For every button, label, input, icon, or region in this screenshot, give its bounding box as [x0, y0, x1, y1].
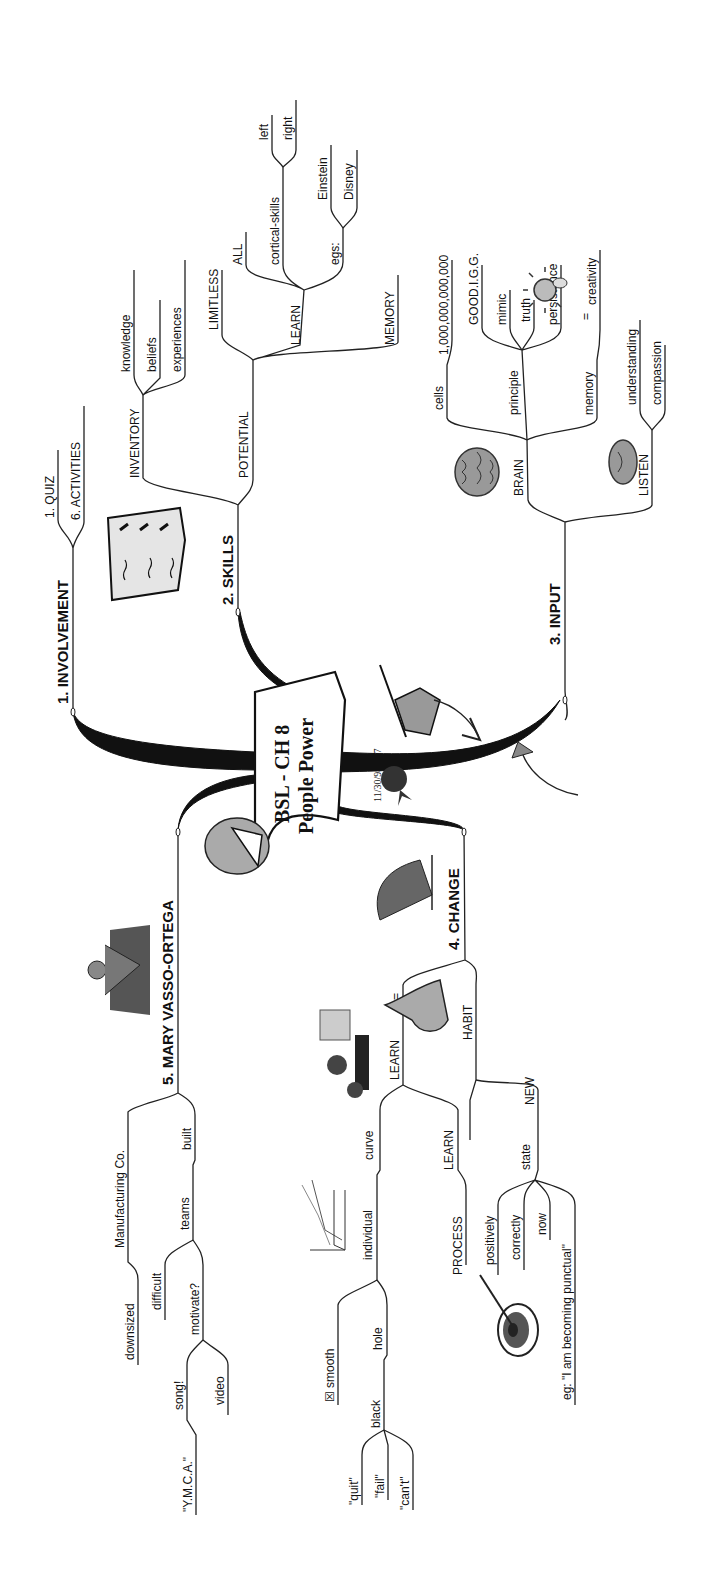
memory-input-label: memory	[582, 372, 596, 415]
process-label: PROCESS	[451, 1216, 465, 1275]
thumb-hand-icon	[385, 980, 448, 1031]
beliefs-label: beliefs	[145, 337, 159, 372]
difficult-label: difficult	[150, 1272, 164, 1310]
change-learn-label: LEARN	[388, 1040, 402, 1080]
cortical-skills-label: cortical-skills	[268, 197, 282, 265]
involvement-label: 1. INVOLVEMENT	[54, 580, 71, 704]
egs-label: egs:	[328, 242, 342, 265]
branch-change: 4. CHANGE = LEARN curve individual ☒ smo…	[302, 828, 575, 1510]
rosette-icon	[381, 766, 412, 806]
activities-label: 6. ACTIVITIES	[69, 442, 83, 520]
brain-label: BRAIN	[512, 459, 526, 496]
truth-label: truth	[519, 298, 533, 322]
correctly-label: correctly	[509, 1215, 523, 1260]
curve-label: curve	[362, 1130, 376, 1160]
smooth-marker: ☒	[323, 1391, 337, 1402]
all-label: ALL	[231, 243, 245, 265]
central-title: BSL - CH 8	[271, 725, 293, 823]
sailboat-icon	[377, 855, 432, 920]
cells-value: 1,000,000,000,000	[437, 255, 451, 355]
input-label: 3. INPUT	[546, 583, 563, 645]
laughing-face-icon	[205, 818, 269, 874]
branch-involvement: 1. INVOLVEMENT 1. QUIZ 6. ACTIVITIES	[43, 406, 84, 716]
learn-label: LEARN	[289, 305, 303, 345]
teams-label: teams	[178, 1197, 192, 1230]
central-subtitle: People Power	[295, 718, 318, 834]
now-label: now	[535, 1213, 549, 1235]
ymca-label: "Y.M.C.A."	[181, 1457, 195, 1512]
hole-label: hole	[371, 1327, 385, 1350]
mimic-label: mimic	[495, 294, 509, 325]
branch-skills: 2. SKILLS INVENTORY knowledge beliefs ex…	[108, 100, 398, 616]
memory-equals: =	[579, 313, 593, 320]
central-date: 11/30/98 - v7	[372, 748, 383, 802]
experiences-label: experiences	[170, 307, 184, 372]
learning-curve-chart-icon	[302, 1180, 345, 1250]
disney-label: Disney	[342, 163, 356, 200]
ear-icon	[609, 440, 637, 484]
built-label: built	[180, 1127, 194, 1150]
quiz-label: 1. QUIZ	[43, 476, 57, 518]
branch-mary: 5. MARY VASSO-ORTEGA Manufacturing Co. d…	[88, 828, 228, 1515]
listen-label: LISTEN	[637, 454, 651, 496]
limitless-label: LIMITLESS	[207, 269, 221, 330]
knowledge-label: knowledge	[119, 314, 133, 372]
quit-label: "quit"	[347, 1477, 361, 1505]
connector-change	[333, 805, 464, 830]
checklist-icon	[108, 508, 185, 600]
right-label: right	[281, 116, 295, 140]
individual-label: individual	[361, 1210, 375, 1260]
motivate-label: motivate?	[188, 1283, 202, 1335]
new-label: NEW	[523, 1076, 537, 1105]
meditating-person-icon	[88, 925, 150, 1015]
connector-involvement	[73, 712, 255, 770]
good-igg-label: GOOD.I.G.G.	[467, 253, 481, 325]
change-label: 4. CHANGE	[445, 868, 462, 950]
black-label: black	[369, 1399, 383, 1428]
mary-label: 5. MARY VASSO-ORTEGA	[159, 900, 176, 1085]
smooth-label: smooth	[323, 1349, 337, 1388]
mind-map: BSL - CH 8 People Power 11/30/98 - v7	[0, 0, 710, 1595]
habit-label: HABIT	[461, 1004, 475, 1040]
central-node: BSL - CH 8 People Power 11/30/98 - v7	[73, 612, 578, 874]
compassion-label: compassion	[650, 341, 664, 405]
creativity-label: creativity	[585, 258, 599, 305]
manufacturing-label: Manufacturing Co.	[113, 1150, 127, 1248]
state-label: state	[519, 1144, 533, 1170]
left-label: left	[257, 123, 271, 140]
positively-label: positively	[483, 1216, 497, 1265]
cells-label: cells	[432, 386, 446, 410]
video-label: video	[213, 1376, 227, 1405]
fail-label: "fail"	[373, 1474, 387, 1498]
branch-input: 3. INPUT BRAIN cells 1,000,000,000,000 p…	[432, 250, 665, 720]
downsized-label: downsized	[123, 1303, 137, 1360]
understanding-label: understanding	[625, 329, 639, 405]
brain-icon	[455, 448, 499, 496]
potential-label: POTENTIAL	[237, 411, 251, 478]
memory-label: MEMORY	[383, 291, 397, 345]
connector-skills	[238, 612, 290, 690]
example-label: eg: "I am becoming punctual"	[560, 1244, 574, 1400]
cant-label: "can't"	[398, 1477, 412, 1511]
skills-label: 2. SKILLS	[219, 535, 236, 605]
song-label: song!	[172, 1381, 186, 1410]
inventory-label: INVENTORY	[128, 408, 142, 478]
target-arrow-icon	[480, 1275, 538, 1356]
writing-hand-icon	[380, 665, 440, 737]
principle-label: principle	[507, 370, 521, 415]
process-learn-label: LEARN	[442, 1130, 456, 1170]
classroom-icon	[320, 1010, 369, 1098]
einstein-label: Einstein	[316, 157, 330, 200]
